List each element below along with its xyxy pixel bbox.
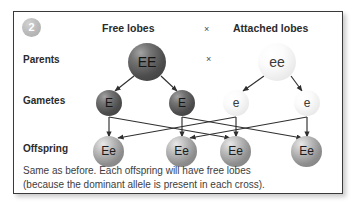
offspring-genotype-label: Ee — [299, 144, 314, 158]
gamete-sphere-E-1: E — [96, 90, 122, 116]
gamete-allele-label: e — [233, 96, 240, 110]
parent-sphere-ee: ee — [258, 43, 296, 81]
figure-caption: Same as before. Each offspring will have… — [23, 164, 323, 191]
gamete-sphere-e-2: e — [294, 90, 320, 116]
figure-stage: 2 Free lobes × Attached lobes Parents Ga… — [0, 0, 356, 210]
caption-line-1: Same as before. Each offspring will have… — [23, 164, 323, 178]
offspring-genotype-label: Ee — [228, 144, 243, 158]
gamete-allele-label: E — [105, 96, 113, 110]
offspring-sphere-3: Ee — [220, 136, 251, 167]
parent-genotype-label: ee — [269, 54, 285, 70]
gamete-sphere-e-1: e — [223, 90, 249, 116]
offspring-genotype-label: Ee — [174, 144, 189, 158]
parent-genotype-label: EE — [138, 54, 157, 70]
caption-line-2: (because the dominant allele is present … — [23, 178, 323, 192]
parent-sphere-EE: EE — [128, 43, 166, 81]
gamete-sphere-E-2: E — [169, 90, 195, 116]
gamete-allele-label: E — [178, 96, 186, 110]
offspring-sphere-2: Ee — [166, 136, 197, 167]
offspring-genotype-label: Ee — [101, 144, 116, 158]
offspring-sphere-4: Ee — [291, 136, 322, 167]
offspring-sphere-1: Ee — [93, 136, 124, 167]
genetics-cross-panel: 2 Free lobes × Attached lobes Parents Ga… — [13, 11, 343, 194]
punnett-cross-diagram: 2 Free lobes × Attached lobes Parents Ga… — [14, 12, 344, 195]
gamete-allele-label: e — [304, 96, 311, 110]
